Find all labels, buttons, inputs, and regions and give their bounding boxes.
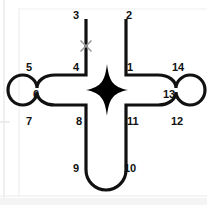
- vertex-label-12: 12: [171, 116, 183, 127]
- vertex-label-3: 3: [73, 10, 79, 21]
- four-point-star-icon: [86, 64, 128, 116]
- vertex-label-13: 13: [163, 89, 175, 100]
- vertex-label-5: 5: [26, 62, 32, 73]
- vertex-label-2: 2: [126, 10, 132, 21]
- figure-vector: [0, 0, 207, 205]
- vertex-label-14: 14: [172, 62, 184, 73]
- vertex-label-11: 11: [127, 116, 139, 127]
- vertex-label-4: 4: [73, 62, 79, 73]
- vertex-label-8: 8: [76, 116, 82, 127]
- vertex-label-10: 10: [124, 163, 136, 174]
- vertex-label-6: 6: [33, 89, 39, 100]
- vertex-label-1: 1: [127, 62, 133, 73]
- vertex-label-7: 7: [26, 116, 32, 127]
- diagram-canvas: 1 2 3 4 5 6 7 8 9 10 11 12 13 14: [0, 0, 207, 205]
- vertex-label-9: 9: [73, 163, 79, 174]
